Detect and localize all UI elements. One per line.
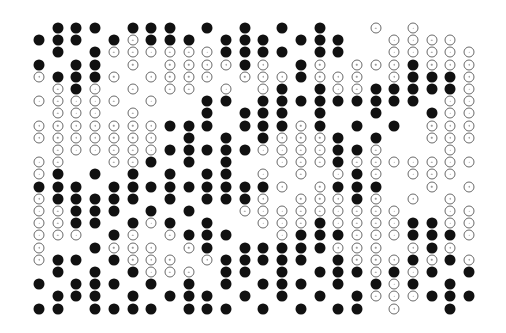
hollow-circle xyxy=(389,254,400,265)
hollow-circle xyxy=(351,206,362,217)
filled-circle xyxy=(314,35,325,46)
hollow-circle xyxy=(183,84,194,95)
hollow-circle xyxy=(258,169,269,180)
filled-circle xyxy=(239,23,250,34)
filled-circle xyxy=(127,267,138,278)
filled-circle xyxy=(127,181,138,192)
filled-circle xyxy=(370,108,381,119)
hollow-circle xyxy=(408,193,419,204)
filled-circle xyxy=(90,218,101,229)
filled-circle xyxy=(183,206,194,217)
hollow-circle xyxy=(34,132,45,143)
hollow-circle xyxy=(370,59,381,70)
hollow-circle xyxy=(146,47,157,58)
filled-circle xyxy=(258,35,269,46)
hollow-circle xyxy=(277,145,288,156)
filled-circle xyxy=(164,23,175,34)
filled-circle xyxy=(239,242,250,253)
hollow-circle xyxy=(408,35,419,46)
filled-circle xyxy=(351,181,362,192)
hollow-circle xyxy=(164,254,175,265)
hollow-circle xyxy=(426,254,437,265)
filled-circle xyxy=(351,193,362,204)
hollow-circle xyxy=(295,206,306,217)
filled-circle xyxy=(389,267,400,278)
filled-circle xyxy=(351,303,362,314)
filled-circle xyxy=(239,145,250,156)
filled-circle xyxy=(52,169,63,180)
filled-circle xyxy=(221,132,232,143)
hollow-circle xyxy=(426,132,437,143)
filled-circle xyxy=(127,291,138,302)
filled-circle xyxy=(183,279,194,290)
filled-circle xyxy=(333,35,344,46)
hollow-circle xyxy=(164,230,175,241)
filled-circle xyxy=(314,84,325,95)
hollow-circle xyxy=(464,181,475,192)
filled-circle xyxy=(351,267,362,278)
hollow-circle xyxy=(277,181,288,192)
filled-circle xyxy=(34,59,45,70)
filled-circle xyxy=(127,193,138,204)
hollow-circle xyxy=(146,242,157,253)
filled-circle xyxy=(333,96,344,107)
hollow-circle xyxy=(370,242,381,253)
filled-circle xyxy=(90,206,101,217)
hollow-circle xyxy=(464,206,475,217)
filled-circle xyxy=(333,254,344,265)
filled-circle xyxy=(277,279,288,290)
hollow-circle xyxy=(34,120,45,131)
filled-circle xyxy=(351,120,362,131)
filled-circle xyxy=(333,230,344,241)
filled-circle xyxy=(34,279,45,290)
filled-circle xyxy=(34,35,45,46)
hollow-circle xyxy=(52,230,63,241)
hollow-circle xyxy=(333,242,344,253)
hollow-circle xyxy=(164,71,175,82)
hollow-circle xyxy=(464,71,475,82)
filled-circle xyxy=(408,96,419,107)
hollow-circle xyxy=(370,291,381,302)
hollow-circle xyxy=(34,96,45,107)
hollow-circle xyxy=(146,71,157,82)
filled-circle xyxy=(164,145,175,156)
hollow-circle xyxy=(295,145,306,156)
hollow-circle xyxy=(295,120,306,131)
filled-circle xyxy=(351,145,362,156)
filled-circle xyxy=(183,132,194,143)
hollow-circle xyxy=(52,132,63,143)
filled-circle xyxy=(202,230,213,241)
filled-circle xyxy=(52,71,63,82)
hollow-circle xyxy=(127,84,138,95)
hollow-circle xyxy=(314,157,325,168)
dot-grid xyxy=(0,0,506,333)
filled-circle xyxy=(71,206,82,217)
filled-circle xyxy=(221,303,232,314)
hollow-circle xyxy=(202,59,213,70)
filled-circle xyxy=(277,84,288,95)
hollow-circle xyxy=(34,230,45,241)
filled-circle xyxy=(183,303,194,314)
hollow-circle xyxy=(389,230,400,241)
hollow-circle xyxy=(34,242,45,253)
hollow-circle xyxy=(389,157,400,168)
hollow-circle xyxy=(52,157,63,168)
hollow-circle xyxy=(464,120,475,131)
hollow-circle xyxy=(202,254,213,265)
filled-circle xyxy=(258,279,269,290)
filled-circle xyxy=(464,291,475,302)
filled-circle xyxy=(314,267,325,278)
hollow-circle xyxy=(34,218,45,229)
hollow-circle xyxy=(351,71,362,82)
hollow-circle xyxy=(71,96,82,107)
hollow-circle xyxy=(389,59,400,70)
filled-circle xyxy=(314,23,325,34)
filled-circle xyxy=(239,47,250,58)
filled-circle xyxy=(146,279,157,290)
hollow-circle xyxy=(146,120,157,131)
hollow-circle xyxy=(34,254,45,265)
hollow-circle xyxy=(146,145,157,156)
filled-circle xyxy=(71,291,82,302)
hollow-circle xyxy=(445,169,456,180)
filled-circle xyxy=(108,206,119,217)
